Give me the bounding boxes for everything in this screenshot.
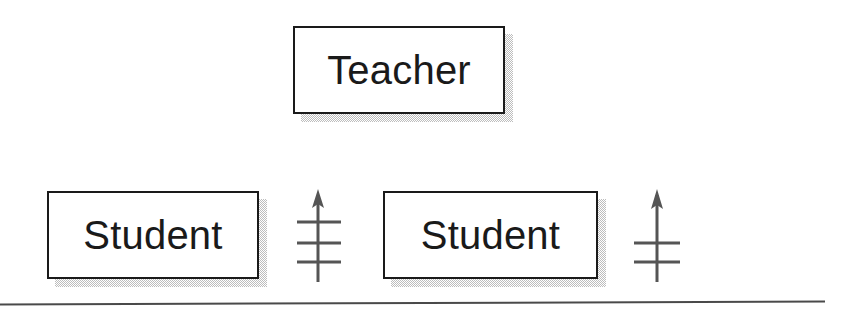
teacher-node[interactable]: Teacher xyxy=(293,26,505,114)
student2-node[interactable]: Student xyxy=(383,191,598,279)
diagram-canvas: Teacher Student Student xyxy=(0,0,862,331)
student1-node-label: Student xyxy=(83,215,222,255)
bottom-divider-rule xyxy=(0,295,862,311)
student2-node-label: Student xyxy=(421,215,560,255)
up-arrow-three-crossbars-icon xyxy=(297,188,343,286)
student1-node[interactable]: Student xyxy=(47,191,259,279)
teacher-node-label: Teacher xyxy=(327,50,471,90)
up-arrow-two-crossbars-icon xyxy=(634,188,682,286)
